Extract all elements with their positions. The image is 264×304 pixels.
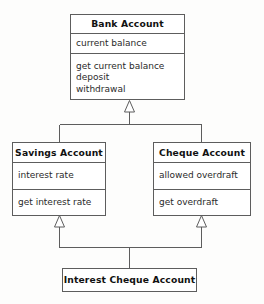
- class-name-bank-account: Bank Account: [71, 19, 184, 28]
- class-name-compartment-bank-account: Bank Account: [71, 15, 184, 33]
- generalization-arrowhead-cheque-account: [197, 216, 207, 228]
- attribute-item: allowed overdraft: [154, 170, 250, 182]
- class-name-compartment-savings-account: Savings Account: [13, 143, 105, 162]
- class-name-cheque-account: Cheque Account: [154, 148, 250, 157]
- uml-class-cheque-account[interactable]: Cheque Account allowed overdraft get ove…: [153, 142, 251, 216]
- class-name-compartment-cheque-account: Cheque Account: [154, 143, 250, 162]
- class-name-compartment-interest-cheque-account: Interest Cheque Account: [63, 269, 196, 291]
- attribute-compartment-savings-account: interest rate: [13, 162, 105, 189]
- operation-compartment-bank-account: get current balance deposit withdrawal: [71, 53, 184, 99]
- operation-item: get current balance: [71, 61, 184, 73]
- operation-item: get interest rate: [13, 197, 105, 209]
- generalization-arrowhead-bank-account: [125, 101, 135, 113]
- attribute-item: interest rate: [13, 170, 105, 182]
- operation-compartment-savings-account: get interest rate: [13, 189, 105, 215]
- uml-class-interest-cheque-account[interactable]: Interest Cheque Account: [62, 268, 197, 292]
- attribute-compartment-cheque-account: allowed overdraft: [154, 162, 250, 189]
- uml-class-bank-account[interactable]: Bank Account current balance get current…: [70, 14, 185, 100]
- operation-compartment-cheque-account: get overdraft: [154, 189, 250, 215]
- uml-class-diagram-canvas: Bank Account current balance get current…: [0, 0, 264, 304]
- operation-item: withdrawal: [71, 84, 184, 96]
- generalization-arrowhead-savings-account: [55, 216, 65, 228]
- attribute-item: current balance: [71, 38, 184, 50]
- class-name-interest-cheque-account: Interest Cheque Account: [63, 275, 196, 284]
- operation-item: deposit: [71, 72, 184, 84]
- operation-item: get overdraft: [154, 197, 250, 209]
- class-name-savings-account: Savings Account: [13, 148, 105, 157]
- attribute-compartment-bank-account: current balance: [71, 33, 184, 53]
- uml-class-savings-account[interactable]: Savings Account interest rate get intere…: [12, 142, 106, 216]
